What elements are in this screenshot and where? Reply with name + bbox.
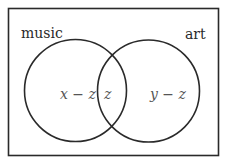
music-only-region-label: x − z (60, 86, 97, 102)
art-set-label: art (185, 26, 206, 42)
venn-diagram: music art x − z z y − z (0, 0, 228, 167)
art-only-region-label: y − z (149, 86, 187, 102)
intersection-region-label: z (103, 86, 112, 102)
music-set-label: music (21, 25, 63, 41)
